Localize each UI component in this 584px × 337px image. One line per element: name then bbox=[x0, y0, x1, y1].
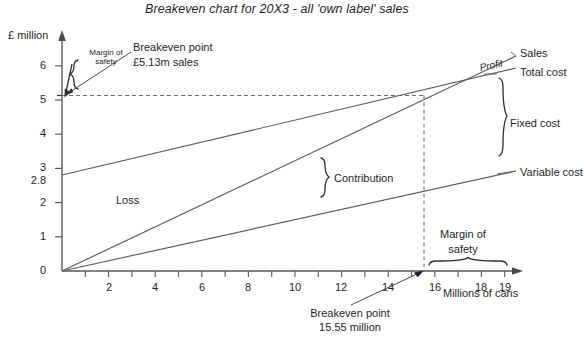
margin-of-safety-y-brace bbox=[70, 60, 78, 89]
y-tick-label-0: 0 bbox=[36, 264, 50, 277]
chart-title: Breakeven chart for 20X3 - all 'own labe… bbox=[145, 2, 409, 16]
y-tick-label-1: 1 bbox=[36, 230, 50, 243]
x-tick-label-8: 8 bbox=[238, 281, 258, 294]
region-label-contribution: Contribution bbox=[334, 172, 393, 185]
x-tick-label-19: 19 bbox=[495, 281, 515, 294]
x-tick-label-16: 16 bbox=[425, 281, 445, 294]
x-tick-label-12: 12 bbox=[331, 281, 351, 294]
series-label-fixed-cost: Fixed cost bbox=[510, 117, 560, 130]
x-axis bbox=[62, 267, 523, 275]
total-cost-line bbox=[62, 68, 516, 175]
breakeven-x-note-line2: 15.55 million bbox=[270, 321, 430, 334]
y-axis-title: £ million bbox=[8, 29, 48, 42]
y-tick-label-6: 6 bbox=[36, 59, 50, 72]
fixed-cost-brace bbox=[499, 78, 507, 156]
y-tick-label-3: 3 bbox=[36, 161, 50, 174]
region-label-loss: Loss bbox=[116, 194, 139, 207]
margin-of-safety-y-label-line2: safety bbox=[79, 58, 133, 67]
x-tick-label-4: 4 bbox=[145, 281, 165, 294]
breakeven-chart: Breakeven chart for 20X3 - all 'own labe… bbox=[0, 0, 584, 337]
breakeven-value-note-line2: £5.13m sales bbox=[133, 56, 198, 69]
variable-cost-line bbox=[62, 171, 516, 271]
x-tick-label-10: 10 bbox=[285, 281, 305, 294]
contribution-brace bbox=[321, 158, 329, 197]
y-tick-label-4: 4 bbox=[36, 127, 50, 140]
y-axis-ticks bbox=[55, 66, 62, 237]
margin-of-safety-x-brace bbox=[429, 257, 507, 265]
y-tick-label-2: 2 bbox=[36, 196, 50, 209]
breakeven-x-note-line1: Breakeven point bbox=[270, 307, 430, 320]
series-label-sales: Sales bbox=[520, 47, 548, 60]
x-axis-ticks bbox=[85, 271, 504, 277]
x-tick-label-6: 6 bbox=[192, 281, 212, 294]
margin-of-safety-x-label-line1: Margin of bbox=[423, 228, 503, 241]
x-tick-label-18: 18 bbox=[471, 281, 491, 294]
series-label-variable-cost: Variable cost bbox=[520, 166, 583, 179]
margin-of-safety-x-label-line2: safety bbox=[423, 243, 503, 256]
series-label-total-cost: Total cost bbox=[520, 66, 566, 79]
y-tick-label-5: 5 bbox=[36, 93, 50, 106]
breakeven-value-note-line1: Breakeven point bbox=[133, 41, 213, 54]
x-tick-label-14: 14 bbox=[378, 281, 398, 294]
y-tick-label-2point8: 2.8 bbox=[27, 174, 50, 187]
x-tick-label-2: 2 bbox=[99, 281, 119, 294]
